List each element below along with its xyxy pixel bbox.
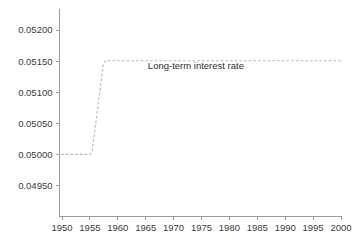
x-tick-label: 1975 (191, 222, 212, 233)
series-annotation-label: Long-term interest rate (148, 60, 244, 71)
plot-background (0, 0, 353, 249)
y-tick-label: 0.05050 (18, 118, 52, 129)
y-tick-label: 0.05100 (18, 87, 52, 98)
x-tick-label: 1965 (135, 222, 156, 233)
y-tick-label: 0.05000 (18, 149, 52, 160)
y-tick-label: 0.04950 (18, 180, 52, 191)
x-tick-label: 1990 (275, 222, 296, 233)
long-term-interest-rate-line-chart: 0.049500.050000.050500.051000.051500.052… (0, 0, 353, 249)
x-tick-label: 2000 (330, 222, 351, 233)
x-tick-label: 1960 (107, 222, 128, 233)
chart-container: 0.049500.050000.050500.051000.051500.052… (0, 0, 353, 249)
x-tick-label: 1955 (79, 222, 100, 233)
x-tick-label: 1970 (163, 222, 184, 233)
x-tick-label: 1980 (219, 222, 240, 233)
y-tick-label: 0.05150 (18, 56, 52, 67)
y-tick-label: 0.05200 (18, 24, 52, 35)
x-tick-label: 1985 (247, 222, 268, 233)
x-tick-label: 1995 (303, 222, 324, 233)
annotation-layer: Long-term interest rate (148, 60, 244, 71)
x-tick-label: 1950 (51, 222, 72, 233)
